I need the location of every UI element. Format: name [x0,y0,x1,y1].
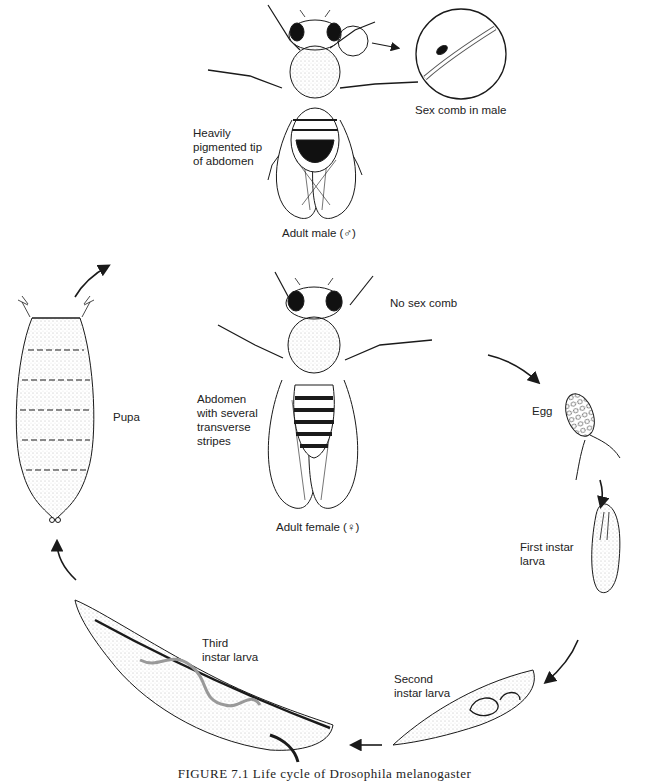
pupa [16,296,94,523]
adult-male-label: Adult male (♂) [282,226,356,240]
arrow-pupa-to-adult [75,266,108,297]
egg [560,390,620,480]
adult-male-fly [208,5,418,218]
arrow-adult-to-egg [488,355,538,382]
adult-female-label: Adult female (♀) [276,520,359,534]
arrow-first-to-second [546,640,578,682]
arrow-third-to-pupa [57,542,76,580]
first-instar-label: First instar larva [520,540,574,568]
figure-caption: FIGURE 7.1 Life cycle of Drosophila mela… [0,766,649,782]
third-instar-larva [75,600,333,762]
male-abdomen-annotation: Heavily pigmented tip of abdomen [193,126,262,168]
egg-label: Egg [532,404,552,418]
pupa-label: Pupa [113,410,140,424]
arrow-egg-to-first [600,480,602,506]
sex-comb-label: Sex comb in male [415,103,506,117]
third-instar-label: Third instar larva [202,636,258,664]
second-instar-label: Second instar larva [394,672,450,700]
female-abdomen-annotation: Abdomen with several transverse stripes [197,392,258,448]
no-sex-comb-label: No sex comb [390,296,457,310]
first-instar-larva [592,504,620,593]
